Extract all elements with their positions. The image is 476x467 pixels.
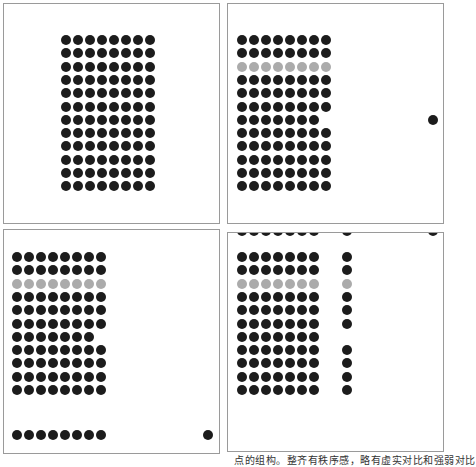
dark-dot bbox=[48, 292, 58, 302]
dark-dot bbox=[109, 181, 119, 191]
dark-dot bbox=[309, 48, 319, 58]
dark-dot bbox=[273, 141, 283, 151]
dark-dot bbox=[72, 305, 82, 315]
dark-dot bbox=[72, 345, 82, 355]
dark-dot bbox=[85, 75, 95, 85]
dark-dot bbox=[84, 332, 94, 342]
dark-dot bbox=[24, 292, 34, 302]
dark-dot bbox=[85, 141, 95, 151]
panel-c bbox=[3, 229, 220, 454]
dark-dot bbox=[261, 141, 271, 151]
dark-dot bbox=[321, 168, 331, 178]
dark-dot bbox=[297, 48, 307, 58]
dark-dot bbox=[36, 319, 46, 329]
dark-dot bbox=[12, 430, 22, 440]
dark-dot bbox=[321, 128, 331, 138]
dark-dot bbox=[261, 48, 271, 58]
dark-dot bbox=[273, 372, 283, 382]
dark-dot bbox=[72, 358, 82, 368]
dark-dot bbox=[342, 305, 352, 315]
dark-dot bbox=[309, 385, 319, 395]
dark-dot bbox=[97, 102, 107, 112]
dark-dot bbox=[237, 128, 247, 138]
dark-dot bbox=[297, 102, 307, 112]
dark-dot bbox=[428, 232, 438, 236]
dark-dot bbox=[309, 252, 319, 262]
dark-dot bbox=[61, 115, 71, 125]
dark-dot bbox=[249, 232, 259, 236]
dark-dot bbox=[61, 48, 71, 58]
dark-dot bbox=[309, 345, 319, 355]
dark-dot bbox=[249, 358, 259, 368]
dark-dot bbox=[342, 372, 352, 382]
dark-dot bbox=[261, 128, 271, 138]
dark-dot bbox=[261, 168, 271, 178]
dark-dot bbox=[60, 265, 70, 275]
dark-dot bbox=[61, 35, 71, 45]
dark-dot bbox=[285, 35, 295, 45]
dark-dot bbox=[309, 232, 319, 236]
dark-dot bbox=[321, 181, 331, 191]
dark-dot bbox=[297, 168, 307, 178]
dark-dot bbox=[60, 252, 70, 262]
dark-dot bbox=[309, 88, 319, 98]
dark-dot bbox=[342, 358, 352, 368]
dark-dot bbox=[145, 88, 155, 98]
dark-dot bbox=[84, 265, 94, 275]
dark-dot bbox=[85, 35, 95, 45]
dark-dot bbox=[285, 88, 295, 98]
dark-dot bbox=[61, 168, 71, 178]
dark-dot bbox=[309, 141, 319, 151]
dark-dot bbox=[36, 345, 46, 355]
dark-dot bbox=[237, 305, 247, 315]
dark-dot bbox=[72, 292, 82, 302]
dark-dot bbox=[261, 232, 271, 236]
dark-dot bbox=[342, 265, 352, 275]
dark-dot bbox=[36, 252, 46, 262]
dark-dot bbox=[60, 292, 70, 302]
dark-dot bbox=[297, 141, 307, 151]
dark-dot bbox=[309, 102, 319, 112]
dark-dot bbox=[36, 358, 46, 368]
dark-dot bbox=[60, 332, 70, 342]
dark-dot bbox=[24, 430, 34, 440]
dark-dot bbox=[309, 115, 319, 125]
dark-dot bbox=[72, 332, 82, 342]
dark-dot bbox=[48, 319, 58, 329]
dark-dot bbox=[85, 88, 95, 98]
dark-dot bbox=[97, 155, 107, 165]
dark-dot bbox=[121, 115, 131, 125]
dark-dot bbox=[285, 252, 295, 262]
dark-dot bbox=[285, 385, 295, 395]
dark-dot bbox=[249, 35, 259, 45]
dark-dot bbox=[48, 345, 58, 355]
dark-dot bbox=[309, 319, 319, 329]
dark-dot bbox=[249, 141, 259, 151]
dark-dot bbox=[109, 48, 119, 58]
dark-dot bbox=[237, 345, 247, 355]
dark-dot bbox=[24, 345, 34, 355]
dark-dot bbox=[237, 372, 247, 382]
dark-dot bbox=[48, 358, 58, 368]
dark-dot bbox=[24, 385, 34, 395]
dark-dot bbox=[273, 102, 283, 112]
gray-dot bbox=[36, 279, 46, 289]
dark-dot bbox=[237, 252, 247, 262]
dark-dot bbox=[249, 265, 259, 275]
dark-dot bbox=[145, 155, 155, 165]
dark-dot bbox=[237, 385, 247, 395]
dark-dot bbox=[12, 358, 22, 368]
dark-dot bbox=[261, 385, 271, 395]
dark-dot bbox=[84, 430, 94, 440]
dark-dot bbox=[121, 102, 131, 112]
dark-dot bbox=[121, 75, 131, 85]
dark-dot bbox=[285, 141, 295, 151]
dark-dot bbox=[48, 265, 58, 275]
dark-dot bbox=[84, 292, 94, 302]
dark-dot bbox=[12, 319, 22, 329]
dark-dot bbox=[60, 345, 70, 355]
dark-dot bbox=[73, 168, 83, 178]
dark-dot bbox=[145, 181, 155, 191]
dark-dot bbox=[60, 305, 70, 315]
dark-dot bbox=[36, 292, 46, 302]
